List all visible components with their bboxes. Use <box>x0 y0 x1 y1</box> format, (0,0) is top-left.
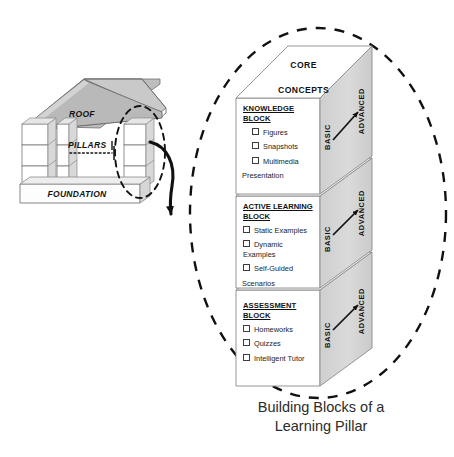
active-learning-block-title-line2: BLOCK <box>243 212 270 221</box>
checkbox-icon <box>243 240 250 247</box>
checkbox-icon <box>252 142 259 149</box>
checkbox-icon <box>243 325 250 332</box>
assessment-block-content: ASSESSMENT BLOCK Homeworks Quizzes Intel… <box>236 295 320 386</box>
list-item: Quizzes <box>243 339 313 349</box>
advanced-axis-label-2: ADVANCED <box>357 190 366 236</box>
list-item-continuation: Presentation <box>242 171 313 181</box>
core-concepts-line1: CORE <box>290 60 316 70</box>
figure-caption: Building Blocks of a Learning Pillar <box>196 398 446 437</box>
checkbox-icon <box>243 354 250 361</box>
active-learning-block-content: ACTIVE LEARNING BLOCK Static Examples Dy… <box>236 196 320 288</box>
caption-line2: Learning Pillar <box>275 418 368 434</box>
list-item: Self-Guided <box>243 264 313 274</box>
checkbox-icon <box>243 264 250 271</box>
knowledge-block-title: KNOWLEDGE BLOCK <box>243 104 313 125</box>
list-item: Figures <box>243 128 313 138</box>
caption-line1: Building Blocks of a <box>258 399 385 415</box>
list-item: Multimedia <box>243 157 313 167</box>
list-item-continuation: Scenarios <box>242 279 313 289</box>
assessment-block-title-line1: ASSESSMENT <box>243 301 296 310</box>
basic-axis-label-3: BASIC <box>323 322 332 348</box>
knowledge-block-title-line2: BLOCK <box>243 114 271 123</box>
basic-axis-label-1: BASIC <box>323 124 332 150</box>
list-item: Static Examples <box>243 226 313 236</box>
checkbox-icon <box>243 339 250 346</box>
knowledge-block-content: KNOWLEDGE BLOCK Figures Snapshots Multim… <box>236 98 320 194</box>
assessment-block-title: ASSESSMENT BLOCK <box>243 301 313 322</box>
list-item: Intelligent Tutor <box>243 354 313 364</box>
active-learning-block-title: ACTIVE LEARNING BLOCK <box>243 202 313 223</box>
active-learning-block-title-line1: ACTIVE LEARNING <box>243 202 313 211</box>
list-item: Snapshots <box>243 142 313 152</box>
checkbox-icon <box>243 226 250 233</box>
basic-axis-label-2: BASIC <box>323 226 332 252</box>
house-roof-label: ROOF <box>50 110 114 120</box>
list-item: Homeworks <box>243 325 313 335</box>
diagram-canvas: ROOF PILLARS FOUNDATION CORE CONCEPTS KN… <box>0 0 454 457</box>
house-foundation-label: FOUNDATION <box>32 190 122 200</box>
core-concepts-line2: CONCEPTS <box>278 85 329 95</box>
advanced-axis-label-1: ADVANCED <box>357 88 366 134</box>
diagram-vector-layer <box>0 0 454 457</box>
checkbox-icon <box>252 157 259 164</box>
list-item: Dynamic Examples <box>243 240 313 259</box>
assessment-block-title-line2: BLOCK <box>243 311 271 320</box>
checkbox-icon <box>252 128 259 135</box>
knowledge-block-title-line1: KNOWLEDGE <box>243 104 294 113</box>
house-pillars-label: PILLARS <box>68 141 124 151</box>
advanced-axis-label-3: ADVANCED <box>357 288 366 334</box>
